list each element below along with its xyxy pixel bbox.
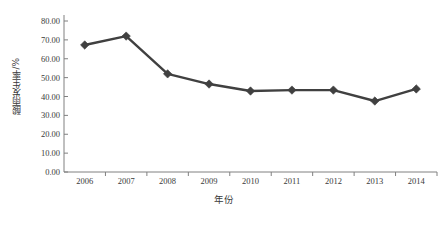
- x-axis-tick-label: 2010: [228, 176, 274, 187]
- data-point-marker: [329, 86, 337, 94]
- acid-rain-line-chart: 酸雨发生率/% 0.0010.0020.0030.0040.0050.0060.…: [0, 0, 447, 225]
- x-axis-tick-label: 2007: [103, 176, 149, 187]
- x-axis-tick-label: 2012: [310, 176, 356, 187]
- data-point-marker: [412, 85, 420, 93]
- x-axis-tick-label: 2008: [145, 176, 191, 187]
- data-point-marker: [205, 80, 213, 88]
- data-point-marker: [288, 86, 296, 94]
- x-axis-tick-labels: 200620072008200920102011201220132014: [0, 176, 447, 190]
- y-axis-ticks: [64, 21, 68, 172]
- data-point-marker: [246, 87, 254, 95]
- data-point-marker: [371, 97, 379, 105]
- x-axis-tick-label: 2013: [352, 176, 398, 187]
- data-point-markers: [81, 32, 421, 105]
- x-axis-tick-label: 2011: [269, 176, 315, 187]
- x-axis-tick-label: 2014: [393, 176, 439, 187]
- x-axis-tick-label: 2009: [186, 176, 232, 187]
- x-axis-title: 年份: [0, 192, 447, 206]
- data-point-marker: [81, 41, 89, 49]
- x-axis-tick-label: 2006: [62, 176, 108, 187]
